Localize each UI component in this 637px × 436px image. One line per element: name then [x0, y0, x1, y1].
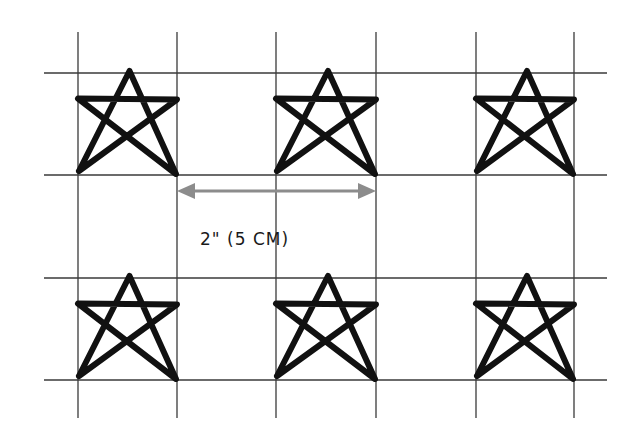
- arrow-head-right-icon: [358, 183, 376, 199]
- star-icon: [78, 276, 177, 379]
- star-icon: [476, 276, 574, 379]
- stars-group: [78, 71, 574, 379]
- grid-lines: [44, 32, 607, 418]
- measurement-label: 2" (5 CM): [200, 229, 289, 249]
- star-icon: [476, 71, 574, 174]
- arrow-head-left-icon: [177, 183, 195, 199]
- diagram-canvas: 2" (5 CM): [0, 0, 637, 436]
- star-icon: [276, 71, 376, 174]
- star-icon: [78, 71, 177, 174]
- grid-diagram: [0, 0, 637, 436]
- star-icon: [276, 276, 376, 379]
